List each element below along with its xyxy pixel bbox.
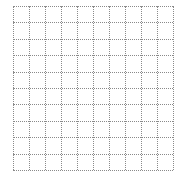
grid-horizontal-line [13,39,173,40]
grid-horizontal-line [13,121,173,122]
grid-horizontal-line [13,22,173,23]
grid-horizontal-line [13,6,173,7]
grid-horizontal-line [13,154,173,155]
grid-horizontal-line [13,88,173,89]
grid-horizontal-line [13,170,173,171]
grid-vertical-line [173,6,174,170]
grid-horizontal-line [13,104,173,105]
grid-horizontal-line [13,55,173,56]
grid-horizontal-line [13,137,173,138]
dotted-grid [13,6,173,170]
grid-horizontal-line [13,72,173,73]
